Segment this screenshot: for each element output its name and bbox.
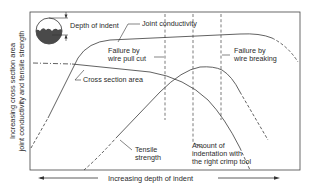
x-axis-label: Increasing depth of indent — [108, 174, 193, 183]
x-axis-right-arrow-icon — [274, 176, 280, 180]
breaking-label-2: wire breaking — [233, 54, 277, 63]
joint-conductivity-curve-dashed-start — [31, 118, 48, 148]
cross-section-area-label: Cross section area — [83, 75, 143, 84]
y-axis-label-line2: joint conductivity and tensile strength — [17, 31, 26, 153]
depth-of-indent-label: Depth of indent — [70, 21, 119, 30]
tensile-strength-label-2: strength — [135, 153, 161, 162]
cross-section-area-dashdot — [33, 63, 72, 64]
pull-cut-label-2: wire pull cut — [107, 54, 146, 63]
y-axis-label: Increasing cross section area joint cond… — [8, 31, 26, 153]
indented-wire-fill — [34, 28, 64, 46]
tensile-strength-leader — [120, 140, 132, 150]
y-axis-label-line1: Increasing cross section area — [8, 42, 17, 139]
tensile-strength-dashed-end — [240, 92, 268, 140]
x-axis-left-arrow-icon — [38, 176, 44, 180]
joint-conductivity-label: Joint conductivity — [142, 19, 197, 28]
tensile-strength-dashed-start — [84, 138, 116, 170]
depth-of-indent-inset: Depth of indent — [34, 12, 119, 46]
crimp-diagram: Increasing cross section area joint cond… — [0, 0, 310, 189]
right-tool-label-3: the right crimp tool — [192, 157, 252, 166]
